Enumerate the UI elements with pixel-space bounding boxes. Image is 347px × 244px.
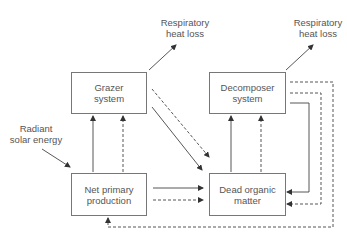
grazer-label-2: system bbox=[94, 93, 124, 104]
dead-organic-matter-box: Dead organicmatter bbox=[209, 173, 286, 216]
dom-label-2: matter bbox=[219, 195, 276, 206]
grazer-label-1: Grazer bbox=[94, 82, 124, 93]
net-primary-production-box: Net primaryproduction bbox=[71, 173, 147, 216]
decomposer-label-2: system bbox=[221, 93, 275, 104]
respiratory-heat-loss-grazer-label: Respiratory heat loss bbox=[150, 17, 220, 39]
grazer-system-box: Grazersystem bbox=[71, 72, 147, 114]
npp-label-2: production bbox=[84, 195, 133, 206]
dom-label-1: Dead organic bbox=[219, 184, 276, 195]
radiant-solar-energy-label: Radiant solar energy bbox=[0, 123, 72, 145]
decomposer-system-box: Decomposersystem bbox=[209, 72, 286, 114]
decomposer-label-1: Decomposer bbox=[221, 82, 275, 93]
respiratory-heat-loss-decomposer-label: Respiratory heat loss bbox=[283, 17, 347, 39]
npp-label-1: Net primary bbox=[84, 184, 133, 195]
